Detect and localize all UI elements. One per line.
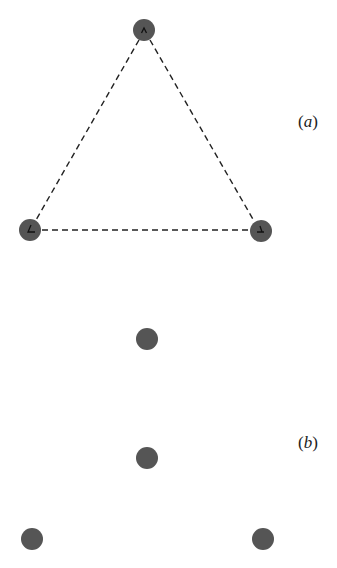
node-b-center-lower [136, 447, 158, 469]
node-b-center-upper [136, 328, 158, 350]
node-a-bottom-left [19, 219, 41, 241]
diagram-canvas [0, 0, 337, 568]
panel-b-letter: b [304, 433, 313, 452]
node-b-bottom-right [252, 528, 274, 550]
panel-b-label: (b) [298, 433, 318, 453]
panel-a-label: (a) [298, 112, 318, 132]
panel-b-nodes [21, 328, 274, 550]
panel-a-nodes [19, 19, 272, 242]
panel-a-letter: a [304, 112, 313, 131]
node-b-bottom-left [21, 528, 43, 550]
node-a-top [133, 19, 155, 41]
edge-top-left [36, 40, 139, 220]
edge-top-right [150, 40, 254, 221]
panel-a-edges [36, 40, 254, 230]
